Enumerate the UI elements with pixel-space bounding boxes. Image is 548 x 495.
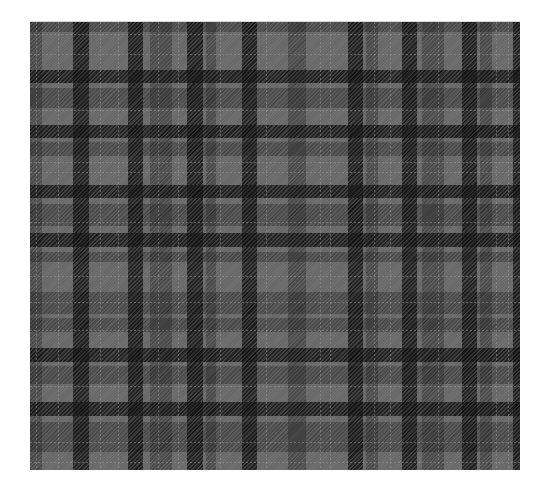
light-horizontal-thread bbox=[30, 276, 520, 277]
light-horizontal-thread bbox=[30, 34, 520, 35]
image-canvas bbox=[0, 0, 548, 495]
light-horizontal-thread bbox=[30, 330, 520, 331]
light-horizontal-thread bbox=[30, 110, 520, 111]
light-horizontal-thread bbox=[30, 222, 520, 223]
light-horizontal-thread bbox=[30, 442, 520, 443]
light-horizontal-thread bbox=[30, 172, 520, 173]
light-horizontal-lines bbox=[30, 22, 520, 470]
light-horizontal-thread bbox=[30, 386, 520, 387]
light-horizontal-thread bbox=[30, 302, 520, 303]
light-horizontal-thread bbox=[30, 462, 520, 463]
light-horizontal-thread bbox=[30, 54, 520, 55]
tartan-fabric bbox=[30, 22, 520, 470]
light-horizontal-thread bbox=[30, 162, 520, 163]
